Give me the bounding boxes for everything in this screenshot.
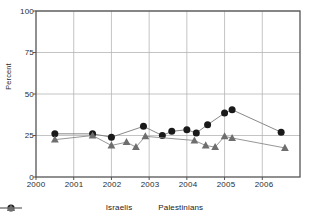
series-line-israelis [55,110,281,137]
chart-legend: Israelis Palestinians [0,203,309,212]
data-point-israelis-5 [168,128,175,135]
plot-area [0,0,309,221]
data-point-israelis-8 [204,121,211,128]
data-point-israelis-9 [221,110,228,117]
legend-label-palestinians: Palestinians [158,203,203,212]
chart-container: Percent 100 75 50 25 0 2000 2001 2002 20… [0,0,309,221]
data-point-palestinians-3 [123,138,131,145]
data-point-israelis-11 [278,129,285,136]
data-point-israelis-10 [229,106,236,113]
data-point-israelis-3 [140,123,147,130]
data-point-israelis-6 [183,126,190,133]
data-point-israelis-7 [193,130,200,137]
legend-item-palestinians[interactable]: Palestinians [158,203,203,212]
legend-item-israelis[interactable]: Israelis [106,203,133,212]
legend-label-israelis: Israelis [106,203,133,212]
data-point-palestinians-7 [202,141,210,148]
legend-marker-triangle-icon [0,203,22,213]
data-point-israelis-2 [108,134,115,141]
